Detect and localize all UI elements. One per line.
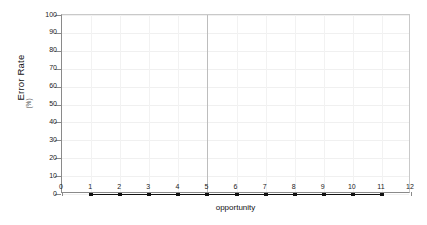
- gridline-vertical: [91, 15, 92, 192]
- y-tick-label: 60: [33, 82, 57, 89]
- y-tick-label: 90: [33, 28, 57, 35]
- series-line-segment: [266, 194, 295, 195]
- series-line-segment: [91, 194, 120, 195]
- data-point-marker: [380, 193, 384, 196]
- data-point-marker: [235, 193, 239, 196]
- gridline-vertical: [149, 15, 150, 192]
- series-line-segment: [353, 194, 382, 195]
- y-tick-label: 0: [33, 190, 57, 197]
- x-tick-label: 5: [194, 183, 218, 190]
- gridline-horizontal: [62, 176, 409, 177]
- gridline-horizontal: [62, 105, 409, 106]
- x-axis-title: opportunity: [61, 203, 410, 212]
- y-tick-label: 10: [33, 172, 57, 179]
- y-tick-label: 80: [33, 46, 57, 53]
- data-point-marker: [322, 193, 326, 196]
- y-tick-label: 70: [33, 64, 57, 71]
- y-tick-label: 50: [33, 100, 57, 107]
- gridline-vertical: [324, 15, 325, 192]
- series-line-segment: [149, 194, 178, 195]
- x-tick-mark: [62, 192, 63, 196]
- x-tick-label: 6: [224, 183, 248, 190]
- x-tick-label: 0: [49, 183, 73, 190]
- data-point-marker: [89, 193, 93, 196]
- gridline-vertical: [353, 15, 354, 192]
- x-tick-label: 3: [136, 183, 160, 190]
- gridline-horizontal: [62, 51, 409, 52]
- series-line-segment: [237, 194, 266, 195]
- series-line-segment: [295, 194, 324, 195]
- y-tick-label: 30: [33, 136, 57, 143]
- gridline-vertical: [178, 15, 179, 192]
- gridline-vertical: [237, 15, 238, 192]
- gridline-vertical: [120, 15, 121, 192]
- series-line-segment: [324, 194, 353, 195]
- y-tick-label: 20: [33, 154, 57, 161]
- gridline-horizontal: [62, 33, 409, 34]
- data-point-marker: [118, 193, 122, 196]
- y-tick-label: 100: [33, 11, 57, 18]
- gridline-horizontal: [62, 122, 409, 123]
- data-point-marker: [293, 193, 297, 196]
- x-tick-label: 10: [340, 183, 364, 190]
- data-point-marker: [205, 193, 209, 196]
- y-axis-unit-label: (%): [25, 93, 32, 115]
- gridline-vertical: [295, 15, 296, 192]
- x-tick-label: 7: [253, 183, 277, 190]
- error-rate-chart: Error Rate (%) 0102030405060708090100 01…: [0, 0, 427, 225]
- series-line-segment: [178, 194, 207, 195]
- x-tick-label: 8: [282, 183, 306, 190]
- x-tick-label: 12: [398, 183, 422, 190]
- series-line-segment: [207, 194, 236, 195]
- series-line-segment: [120, 194, 149, 195]
- x-tick-label: 1: [78, 183, 102, 190]
- data-point-marker: [351, 193, 355, 196]
- reference-line: [207, 15, 208, 192]
- x-tick-label: 4: [165, 183, 189, 190]
- gridline-horizontal: [62, 158, 409, 159]
- gridline-horizontal: [62, 140, 409, 141]
- y-tick-label: 40: [33, 118, 57, 125]
- x-tick-mark: [411, 192, 412, 196]
- data-point-marker: [176, 193, 180, 196]
- gridline-horizontal: [62, 87, 409, 88]
- x-tick-label: 11: [369, 183, 393, 190]
- plot-area: [61, 14, 410, 193]
- gridline-vertical: [382, 15, 383, 192]
- gridline-horizontal: [62, 69, 409, 70]
- gridline-horizontal: [62, 15, 409, 16]
- data-point-marker: [147, 193, 151, 196]
- data-point-marker: [264, 193, 268, 196]
- x-tick-label: 2: [107, 183, 131, 190]
- gridline-vertical: [266, 15, 267, 192]
- x-tick-label: 9: [311, 183, 335, 190]
